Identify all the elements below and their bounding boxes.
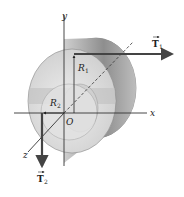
- svg-text:1: 1: [159, 43, 163, 50]
- x-axis-label: x: [150, 108, 155, 118]
- svg-text:T: T: [37, 174, 44, 184]
- svg-text:T: T: [152, 39, 159, 49]
- svg-text:R: R: [77, 63, 85, 73]
- y-axis-label: y: [61, 11, 68, 21]
- z-axis-label: z: [22, 150, 28, 160]
- two-cylinder-torque-diagram: y x z O R 1 R 2 T 1 T 2: [0, 0, 184, 197]
- svg-text:R: R: [49, 98, 57, 108]
- diagram-canvas: y x z O R 1 R 2 T 1 T 2: [0, 0, 184, 197]
- t1-label: T 1: [152, 37, 163, 50]
- svg-text:2: 2: [57, 102, 61, 109]
- inner-cylinder-front-face: [41, 84, 97, 140]
- t2-label: T 2: [37, 172, 48, 185]
- svg-text:1: 1: [85, 67, 89, 74]
- origin-label: O: [66, 117, 74, 127]
- svg-text:2: 2: [44, 178, 48, 185]
